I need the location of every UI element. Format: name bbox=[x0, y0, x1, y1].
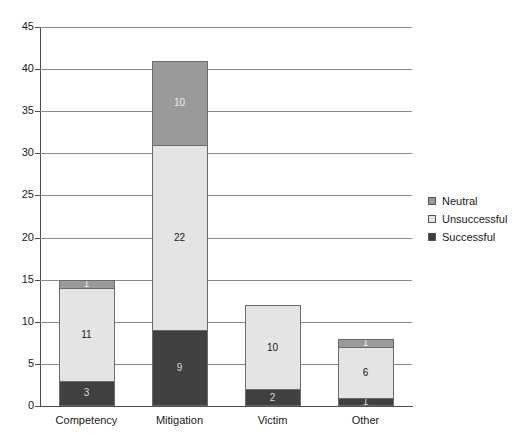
bar-segment-competency-successful[interactable]: 3 bbox=[59, 381, 115, 406]
legend-item-neutral[interactable]: Neutral bbox=[428, 192, 523, 210]
legend-label: Successful bbox=[442, 232, 495, 243]
gridline-40 bbox=[40, 69, 412, 70]
legend-swatch-unsuccessful bbox=[428, 215, 436, 223]
bar-segment-mitigation-successful[interactable]: 9 bbox=[152, 330, 208, 406]
gridline-35 bbox=[40, 111, 412, 112]
x-tick-label-other: Other bbox=[319, 414, 412, 426]
legend-item-successful[interactable]: Successful bbox=[428, 228, 523, 246]
y-tick-label-0: 0 bbox=[8, 400, 34, 411]
bar-segment-competency-unsuccessful[interactable]: 11 bbox=[59, 288, 115, 381]
gridline-20 bbox=[40, 238, 412, 239]
bar-segment-victim-successful[interactable]: 2 bbox=[245, 389, 301, 406]
bar-segment-value: 11 bbox=[81, 330, 91, 340]
y-tick-label-25: 25 bbox=[8, 189, 34, 200]
y-tick-label-15: 15 bbox=[8, 274, 34, 285]
bar-segment-competency-neutral[interactable]: 1 bbox=[59, 280, 115, 288]
bar-segment-value: 2 bbox=[270, 393, 276, 403]
y-tick-label-10: 10 bbox=[8, 316, 34, 327]
bar-segment-value: 10 bbox=[174, 98, 185, 108]
legend-swatch-successful bbox=[428, 233, 436, 241]
bar-stack: 3111 bbox=[59, 280, 115, 406]
bar-segment-value: 6 bbox=[363, 368, 369, 378]
gridline-30 bbox=[40, 153, 412, 154]
legend-item-unsuccessful[interactable]: Unsuccessful bbox=[428, 210, 523, 228]
legend-swatch-neutral bbox=[428, 197, 436, 205]
bar-segment-value: 1 bbox=[84, 280, 90, 288]
bar-segment-value: 9 bbox=[177, 363, 183, 373]
y-tick-label-35: 35 bbox=[8, 105, 34, 116]
bar-segment-value: 1 bbox=[363, 398, 369, 406]
bar-segment-value: 1 bbox=[363, 339, 369, 347]
bar-segment-victim-unsuccessful[interactable]: 10 bbox=[245, 305, 301, 389]
bar-segment-mitigation-neutral[interactable]: 10 bbox=[152, 61, 208, 145]
y-tick-label-45: 45 bbox=[8, 21, 34, 32]
bar-segment-other-neutral[interactable]: 1 bbox=[338, 339, 394, 347]
bar-segment-value: 3 bbox=[84, 388, 90, 398]
bar-stack: 210 bbox=[245, 305, 301, 406]
stacked-bar-chart: 051015202530354045 311192210210161 Compe… bbox=[0, 0, 527, 445]
x-axis-line bbox=[40, 406, 413, 407]
legend-label: Unsuccessful bbox=[442, 214, 507, 225]
bar-segment-value: 22 bbox=[174, 233, 185, 243]
gridline-25 bbox=[40, 195, 412, 196]
y-tick-label-30: 30 bbox=[8, 147, 34, 158]
y-tick-label-40: 40 bbox=[8, 63, 34, 74]
bar-segment-mitigation-unsuccessful[interactable]: 22 bbox=[152, 145, 208, 330]
y-tick-label-20: 20 bbox=[8, 232, 34, 243]
bar-stack: 161 bbox=[338, 339, 394, 406]
bar-stack: 92210 bbox=[152, 61, 208, 406]
gridline-45 bbox=[40, 27, 412, 28]
legend-label: Neutral bbox=[442, 196, 477, 207]
bar-segment-value: 10 bbox=[267, 343, 278, 353]
chart-legend: NeutralUnsuccessfulSuccessful bbox=[428, 192, 523, 246]
x-tick-label-mitigation: Mitigation bbox=[133, 414, 226, 426]
x-tick-label-victim: Victim bbox=[226, 414, 319, 426]
bar-segment-other-successful[interactable]: 1 bbox=[338, 398, 394, 406]
x-tick-label-competency: Competency bbox=[40, 414, 133, 426]
bar-segment-other-unsuccessful[interactable]: 6 bbox=[338, 347, 394, 398]
plot-area: 311192210210161 bbox=[40, 27, 412, 406]
y-tick-label-5: 5 bbox=[8, 358, 34, 369]
